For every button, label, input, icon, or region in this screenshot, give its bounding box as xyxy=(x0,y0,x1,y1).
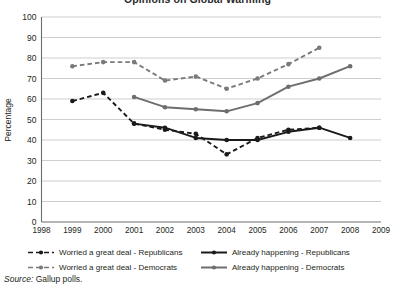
chart-legend: Worried a great deal - Republicans Alrea… xyxy=(28,245,384,275)
plot-area: 0102030405060708090100 19981999200020012… xyxy=(0,0,395,240)
series-0 xyxy=(70,91,322,157)
x-tick-label: 2001 xyxy=(125,226,144,235)
y-tick-label: 10 xyxy=(27,197,37,207)
data-point xyxy=(194,136,199,141)
x-tick-label: 2008 xyxy=(341,226,360,235)
legend-item-happening-democrats[interactable]: Already happening - Democrats xyxy=(201,263,384,272)
y-tick-label: 30 xyxy=(27,156,37,166)
legend-item-worried-republicans[interactable]: Worried a great deal - Republicans xyxy=(28,248,201,257)
data-point xyxy=(224,138,229,143)
legend-label: Worried a great deal - Republicans xyxy=(59,248,182,257)
data-point xyxy=(286,130,291,135)
data-point xyxy=(163,105,168,110)
data-point xyxy=(163,125,168,130)
legend-label: Already happening - Democrats xyxy=(232,263,345,272)
legend-swatch-solid-gray xyxy=(201,263,227,272)
x-tick-label: 1998 xyxy=(32,226,51,235)
data-point xyxy=(132,95,137,100)
x-tick-label: 2002 xyxy=(156,226,175,235)
y-tick-label: 100 xyxy=(22,12,36,22)
data-point xyxy=(224,109,229,114)
chart-svg: 0102030405060708090100 19981999200020012… xyxy=(0,0,395,240)
series-line xyxy=(72,93,319,155)
data-point xyxy=(194,107,199,112)
data-point xyxy=(132,121,137,126)
data-point xyxy=(70,64,75,69)
x-tick-label: 2003 xyxy=(187,226,206,235)
data-point xyxy=(194,74,199,79)
source-note: Source: Gallup polls. xyxy=(4,274,82,284)
data-point xyxy=(255,76,260,81)
series-3 xyxy=(132,64,353,114)
y-tick-label: 80 xyxy=(27,53,37,63)
y-tick-label: 20 xyxy=(27,176,37,186)
series-2 xyxy=(70,45,322,91)
y-tick-label: 40 xyxy=(27,135,37,145)
data-point xyxy=(194,132,199,137)
y-tick-label: 90 xyxy=(27,33,37,43)
y-tick-label: 70 xyxy=(27,74,37,84)
x-tick-label: 1999 xyxy=(63,226,82,235)
chart-figure: Opinions on Global Warming Percentage 01… xyxy=(0,0,395,290)
y-tick-labels: 0102030405060708090100 xyxy=(22,12,36,227)
y-tick-label: 60 xyxy=(27,94,37,104)
data-point xyxy=(317,76,322,81)
data-point xyxy=(163,78,168,83)
data-point xyxy=(132,60,137,65)
data-point xyxy=(101,91,106,96)
x-tick-labels: 1998199920002001200220032004200520062007… xyxy=(32,226,390,235)
data-point xyxy=(348,64,353,69)
series-line xyxy=(72,48,319,89)
data-point xyxy=(286,62,291,67)
legend-swatch-solid-black xyxy=(201,248,227,257)
legend-item-happening-republicans[interactable]: Already happening - Republicans xyxy=(201,248,384,257)
x-tick-label: 2006 xyxy=(279,226,298,235)
legend-swatch-dashed-gray xyxy=(28,263,54,272)
source-text: Gallup polls. xyxy=(36,274,83,284)
data-point xyxy=(101,60,106,65)
legend-swatch-dashed-black xyxy=(28,248,54,257)
legend-label: Worried a great deal - Democrats xyxy=(59,263,177,272)
source-prefix: Source: xyxy=(4,274,33,284)
data-point xyxy=(317,125,322,130)
legend-label: Already happening - Republicans xyxy=(232,248,350,257)
data-point xyxy=(224,152,229,157)
data-point xyxy=(317,45,322,50)
x-tick-label: 2005 xyxy=(248,226,267,235)
data-point xyxy=(348,136,353,141)
series-line xyxy=(134,66,350,111)
gridlines xyxy=(42,17,382,202)
data-point xyxy=(286,84,291,89)
x-tick-label: 2009 xyxy=(372,226,391,235)
x-tick-label: 2004 xyxy=(218,226,237,235)
data-point xyxy=(70,99,75,104)
data-point xyxy=(255,101,260,106)
x-tick-label: 2007 xyxy=(310,226,329,235)
legend-item-worried-democrats[interactable]: Worried a great deal - Democrats xyxy=(28,263,201,272)
data-point xyxy=(255,138,260,143)
y-tick-label: 50 xyxy=(27,115,37,125)
x-tick-label: 2000 xyxy=(94,226,113,235)
data-point xyxy=(224,86,229,91)
